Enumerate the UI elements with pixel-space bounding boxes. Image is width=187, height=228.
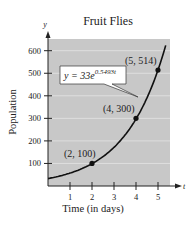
y-tick-label: 200 <box>28 136 41 146</box>
chart: Fruit Flies (2, 100)(4, 300)(5, 514) y t… <box>0 0 187 228</box>
y-tick-label: 600 <box>28 46 41 56</box>
data-point <box>133 116 138 121</box>
y-tick-label: 500 <box>28 68 41 78</box>
y-axis-arrow-icon <box>46 31 51 38</box>
point-label: (5, 514) <box>125 55 157 67</box>
y-tick-label: 400 <box>28 91 41 101</box>
point-label: (2, 100) <box>64 148 96 160</box>
x-tick-label: 5 <box>156 192 160 202</box>
chart-svg: Fruit Flies (2, 100)(4, 300)(5, 514) y t… <box>0 0 187 228</box>
x-axis-arrow-icon <box>175 184 182 189</box>
x-tick-label: 3 <box>112 192 116 202</box>
x-tick-label: 2 <box>90 192 94 202</box>
x-axis-label: Time (in days) <box>62 203 124 215</box>
data-point <box>155 67 160 72</box>
point-label: (4, 300) <box>103 103 135 115</box>
x-tick-label: 4 <box>134 192 139 202</box>
chart-title: Fruit Flies <box>83 14 133 28</box>
y-tick-label: 100 <box>28 158 41 168</box>
data-point <box>89 161 94 166</box>
x-axis-var: t <box>183 182 186 191</box>
y-axis-var: y <box>42 20 47 29</box>
x-tick-label: 1 <box>68 192 72 202</box>
y-axis-label: Population <box>7 89 18 135</box>
y-tick-label: 300 <box>28 113 41 123</box>
